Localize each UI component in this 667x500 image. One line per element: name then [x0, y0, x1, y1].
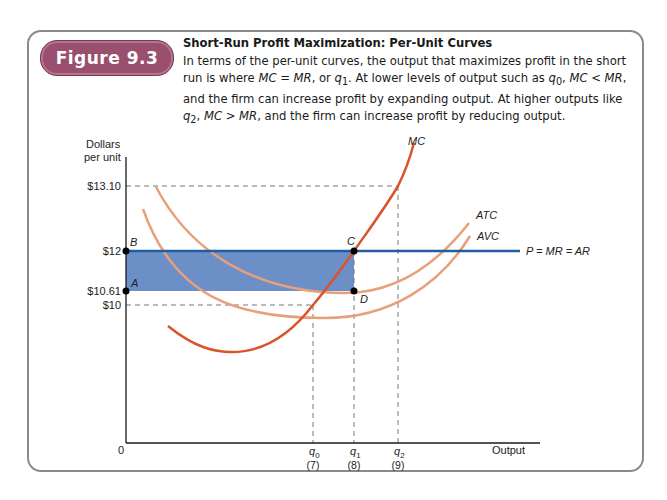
x-tick-q2: q2	[394, 445, 405, 460]
x-tick-q1: q1	[350, 445, 361, 460]
label-a: A	[130, 277, 138, 289]
y-tick-12: $12	[103, 245, 121, 257]
label-avc: AVC	[476, 230, 499, 242]
label-d: D	[360, 293, 368, 305]
label-price: P = MR = AR	[526, 245, 590, 257]
label-c: C	[347, 235, 355, 247]
x-axis-title: Output	[492, 444, 525, 456]
y-tick-1061: $10.61	[87, 285, 121, 297]
x-tick-q2-value: (9)	[392, 459, 405, 471]
x-tick-q0: q0	[309, 445, 320, 460]
y-tick-10: $10	[103, 299, 121, 311]
point-d	[351, 288, 358, 295]
point-c	[351, 248, 358, 255]
chart: Dollars per unit $13.10 $12 $10.61 $10 B…	[0, 0, 667, 500]
y-tick-1310: $13.10	[87, 180, 121, 192]
x-tick-q1-value: (8)	[348, 459, 361, 471]
label-b: B	[130, 236, 137, 248]
origin-label: 0	[118, 444, 124, 456]
y-axis-title-line1: Dollars	[86, 138, 121, 150]
label-atc: ATC	[475, 209, 497, 221]
point-b	[123, 248, 130, 255]
x-tick-q0-value: (7)	[307, 459, 320, 471]
label-mc: MC	[408, 135, 425, 147]
point-a	[123, 288, 130, 295]
y-axis-title-line2: per unit	[84, 151, 121, 163]
